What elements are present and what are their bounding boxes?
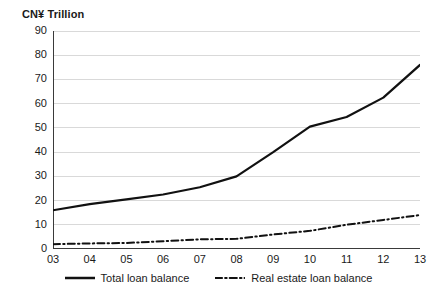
y-tick-label: 80 xyxy=(21,49,47,60)
y-tick-label: 50 xyxy=(21,122,47,133)
y-tick-label: 90 xyxy=(21,25,47,36)
legend-swatch-solid xyxy=(65,273,95,283)
y-tick-label: 10 xyxy=(21,219,47,230)
series-line-solid xyxy=(53,65,420,210)
legend-swatch-dash-dot xyxy=(215,273,245,283)
x-tick-label: 04 xyxy=(75,253,105,266)
x-tick-label: 06 xyxy=(148,253,178,266)
x-tick-label: 09 xyxy=(258,253,288,266)
x-tick-label: 03 xyxy=(38,253,68,266)
y-tick-label: 70 xyxy=(21,73,47,84)
x-tick-label: 11 xyxy=(332,253,362,266)
x-tick-label: 10 xyxy=(295,253,325,266)
y-tick-label: 60 xyxy=(21,98,47,109)
legend-label: Total loan balance xyxy=(101,272,190,284)
series-line-dash-dot xyxy=(53,215,420,244)
legend-item[interactable]: Real estate loan balance xyxy=(215,272,372,284)
chart-title: CN¥ Trillion xyxy=(22,8,84,20)
x-axis-tick-labels: 0304050607080910111213 xyxy=(53,253,420,269)
y-tick-label: 40 xyxy=(21,146,47,157)
legend-item[interactable]: Total loan balance xyxy=(65,272,190,284)
x-tick-label: 12 xyxy=(368,253,398,266)
x-tick-label: 07 xyxy=(185,253,215,266)
x-tick-label: 05 xyxy=(111,253,141,266)
x-tick-label: 08 xyxy=(222,253,252,266)
x-tick-label: 13 xyxy=(405,253,435,266)
line-chart: CN¥ Trillion 0102030405060708090 0304050… xyxy=(0,0,437,297)
y-tick-label: 30 xyxy=(21,170,47,181)
y-tick-label: 20 xyxy=(21,195,47,206)
legend-label: Real estate loan balance xyxy=(251,272,372,284)
chart-legend: Total loan balanceReal estate loan balan… xyxy=(0,272,437,284)
plot-svg xyxy=(53,31,420,249)
y-axis-tick-labels: 0102030405060708090 xyxy=(20,31,47,249)
plot-area xyxy=(53,31,420,249)
